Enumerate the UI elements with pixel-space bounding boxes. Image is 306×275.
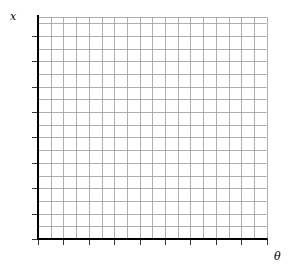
x-axis-label: θ [274, 250, 281, 263]
graph-grid [0, 0, 306, 275]
y-axis-label: x [10, 10, 16, 23]
